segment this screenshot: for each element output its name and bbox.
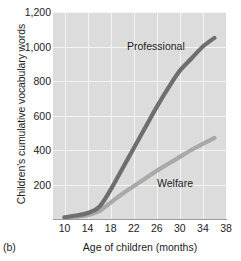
x-axis-tick-label: 14 xyxy=(82,222,94,234)
vocabulary-growth-chart: Children's cumulative vocabulary words 2… xyxy=(0,0,241,261)
y-axis-tick-label: 400 xyxy=(17,144,51,156)
x-axis-baseline xyxy=(53,219,227,220)
panel-label: (b) xyxy=(3,241,16,253)
x-axis-tick-label: 10 xyxy=(59,222,71,234)
x-axis-tick-label: 22 xyxy=(128,222,140,234)
y-axis-tick-label: 1,200 xyxy=(17,6,51,18)
y-axis-tick-label: 200 xyxy=(17,179,51,191)
x-axis-tick-label: 38 xyxy=(220,222,232,234)
series-label-professional: Professional xyxy=(127,40,185,52)
x-axis-title: Age of children (months) xyxy=(53,241,227,253)
professional-line xyxy=(65,38,215,217)
y-axis-tick-label: 1,000 xyxy=(17,41,51,53)
x-axis-tick-label: 18 xyxy=(105,222,117,234)
y-axis-tick-labels: 2004006008001,0001,200 xyxy=(17,0,51,261)
x-axis-tick-label: 26 xyxy=(151,222,163,234)
x-axis-tick-labels: 1014182226303438 xyxy=(53,222,227,238)
y-axis-tick-label: 600 xyxy=(17,110,51,122)
y-axis-tick-label: 800 xyxy=(17,75,51,87)
x-axis-tick-label: 30 xyxy=(174,222,186,234)
series-label-welfare: Welfare xyxy=(157,177,193,189)
x-axis-tick-label: 34 xyxy=(197,222,209,234)
